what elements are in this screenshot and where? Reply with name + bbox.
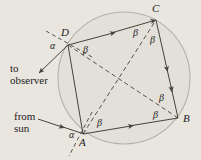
point-label-A: A bbox=[79, 137, 86, 148]
point-label-D: D bbox=[61, 27, 69, 38]
point-label-C: C bbox=[152, 3, 159, 14]
angle-label-alpha-at-A: α bbox=[69, 130, 74, 140]
angle-label-beta-at-D: β bbox=[83, 45, 88, 55]
angle-label-beta-at-A: β bbox=[97, 118, 102, 128]
point-label-B: B bbox=[183, 113, 190, 124]
geometry-figure: A B C D α α β β β β β β to observer from… bbox=[0, 0, 201, 160]
angle-label-beta-at-C-right: β bbox=[150, 35, 155, 45]
angle-label-alpha-at-D: α bbox=[50, 41, 55, 51]
angle-label-beta-at-B-lower: β bbox=[153, 110, 158, 120]
caption-to-observer: to observer bbox=[10, 62, 48, 87]
caption-from-sun: from sun bbox=[14, 110, 35, 135]
ray-from-sun-first-half bbox=[38, 119, 62, 127]
angle-label-beta-at-B-upper: β bbox=[159, 93, 164, 103]
circumscribed-circle bbox=[58, 12, 190, 144]
angle-label-beta-at-C-left: β bbox=[133, 28, 138, 38]
